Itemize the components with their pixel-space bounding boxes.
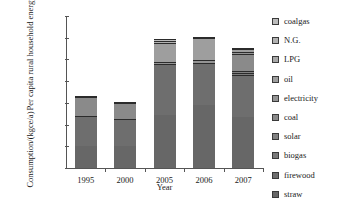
legend-swatch-icon [272, 18, 279, 25]
x-tick [263, 168, 264, 172]
legend-swatch-icon [272, 114, 279, 121]
y-tick [65, 81, 69, 82]
chart-legend: coalgasN.G.LPGoilelectricitycoalsolarbio… [272, 12, 345, 204]
plot-area: 0100200300400500600700 19952000200520062… [66, 16, 263, 168]
bar-segment-solar [232, 71, 254, 74]
legend-item-biogas[interactable]: biogas [272, 146, 345, 165]
bar-segment-straw [114, 146, 136, 168]
x-tick [184, 168, 185, 172]
legend-swatch-icon [272, 56, 279, 63]
legend-label: electricity [284, 94, 318, 103]
bar-1995 [75, 96, 97, 168]
bar-segment-coal [75, 97, 97, 116]
legend-label: coal [284, 113, 298, 122]
bar-segment-N.G. [154, 41, 176, 43]
bar-segment-straw [154, 115, 176, 168]
legend-swatch-icon [272, 152, 279, 159]
legend-label: coalgas [284, 17, 310, 26]
x-axis-title: Year [66, 182, 263, 192]
legend-item-lpg[interactable]: LPG [272, 50, 345, 69]
y-axis-title-line2: Per capita rural household energy [26, 0, 35, 111]
y-tick [65, 125, 69, 126]
bar-segment-N.G. [193, 37, 215, 38]
y-axis-title-line1: Consumption/(kgce/a) [26, 112, 35, 188]
legend-label: LPG [284, 55, 300, 64]
legend-item-firewood[interactable]: firewood [272, 166, 345, 185]
legend-item-oil[interactable]: oil [272, 70, 345, 89]
legend-label: solar [284, 132, 301, 141]
legend-item-coal[interactable]: coal [272, 108, 345, 127]
legend-label: oil [284, 75, 293, 84]
y-axis-line [66, 16, 67, 168]
bar-segment-LPG [232, 48, 254, 49]
bar-segment-firewood [75, 116, 97, 146]
bar-segment-N.G. [75, 96, 97, 97]
legend-swatch-icon [272, 37, 279, 44]
legend-swatch-icon [272, 95, 279, 102]
bar-segment-coalgas [193, 37, 215, 38]
y-tick [65, 103, 69, 104]
bar-segment-coalgas [154, 39, 176, 40]
y-tick [65, 38, 69, 39]
legend-item-coalgas[interactable]: coalgas [272, 12, 345, 31]
bar-segment-straw [232, 117, 254, 168]
bar-2006 [193, 37, 215, 168]
bar-segment-N.G. [114, 102, 136, 103]
y-tick [65, 168, 69, 169]
bar-segment-oil [154, 43, 176, 62]
bar-segment-straw [193, 105, 215, 168]
legend-label: N.G. [284, 36, 301, 45]
x-tick [105, 168, 106, 172]
legend-item-ng[interactable]: N.G. [272, 31, 345, 50]
legend-label: straw [284, 190, 302, 199]
legend-swatch-icon [272, 76, 279, 83]
y-tick [65, 16, 69, 17]
legend-item-straw[interactable]: straw [272, 185, 345, 204]
bar-segment-oil [232, 49, 254, 52]
legend-item-solar[interactable]: solar [272, 127, 345, 146]
bar-segment-firewood [154, 64, 176, 115]
legend-swatch-icon [272, 133, 279, 140]
bar-segment-electricity [154, 62, 176, 65]
y-tick [65, 146, 69, 147]
bar-2005 [154, 39, 176, 168]
legend-swatch-icon [272, 191, 279, 198]
legend-item-electricity[interactable]: electricity [272, 89, 345, 108]
bar-2000 [114, 102, 136, 168]
legend-label: biogas [284, 151, 306, 160]
bar-segment-firewood [232, 75, 254, 117]
bar-segment-oil [193, 38, 215, 60]
bar-segment-electricity [232, 52, 254, 54]
x-axis-line [66, 168, 263, 169]
chart-figure: Consumption/(kgce/a) Per capita rural ho… [0, 0, 345, 218]
bar-segment-coal [114, 103, 136, 119]
bar-segment-biogas [232, 73, 254, 75]
bar-segment-electricity [193, 60, 215, 63]
x-tick [145, 168, 146, 172]
bar-2007 [232, 49, 254, 168]
legend-label: firewood [284, 171, 315, 180]
bar-segment-straw [75, 146, 97, 168]
bar-segment-firewood [114, 119, 136, 146]
bar-segment-firewood [193, 63, 215, 105]
x-tick [224, 168, 225, 172]
y-axis-title: Consumption/(kgce/a) Per capita rural ho… [15, 7, 45, 177]
y-tick [65, 59, 69, 60]
bar-segment-coal [232, 54, 254, 70]
legend-swatch-icon [272, 172, 279, 179]
